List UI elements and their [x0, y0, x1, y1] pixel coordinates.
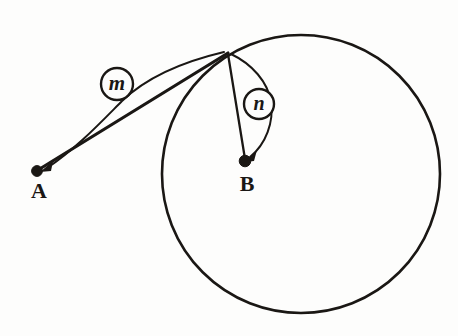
segment-a-to-tangent — [38, 53, 228, 170]
point-label-a: A — [31, 178, 47, 203]
point-a-dot — [32, 166, 43, 177]
circle-B — [162, 35, 440, 313]
geometry-diagram: m n A B — [0, 0, 458, 336]
segment-tangent-to-b — [228, 54, 245, 159]
point-b-dot — [239, 155, 251, 167]
diagram-canvas: m n A B — [0, 0, 458, 336]
callout-label-n: n — [253, 92, 264, 114]
callout-label-m: m — [109, 71, 125, 95]
point-label-b: B — [240, 171, 255, 196]
